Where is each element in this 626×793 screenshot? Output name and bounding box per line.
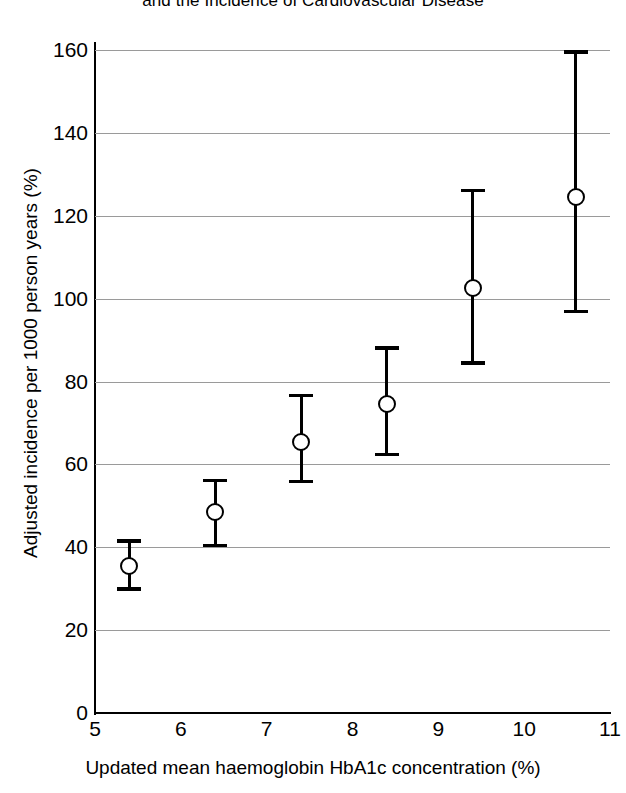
y-axis-tick-label: 100 — [28, 288, 88, 309]
gridline — [95, 216, 610, 217]
error-bar-cap-upper — [117, 539, 141, 543]
y-axis-tick-label: 40 — [28, 536, 88, 557]
error-bar-cap-lower — [203, 544, 227, 548]
y-axis-tick-label: 120 — [28, 205, 88, 226]
data-marker[interactable] — [206, 503, 224, 521]
y-axis-tick-label: 80 — [28, 371, 88, 392]
data-marker[interactable] — [567, 188, 585, 206]
x-axis-tick-label: 6 — [151, 718, 211, 740]
error-bar-cap-lower — [461, 361, 485, 365]
x-axis-tick-label: 11 — [580, 718, 626, 740]
chart-figure: and the Incidence of Cardiovascular Dise… — [0, 0, 626, 793]
y-axis-tick-label: 60 — [28, 453, 88, 474]
error-bar-cap-upper — [564, 50, 588, 54]
gridline — [95, 299, 610, 300]
x-axis-tick-label: 8 — [323, 718, 383, 740]
chart-title: and the Incidence of Cardiovascular Dise… — [0, 0, 626, 11]
error-bar-cap-upper — [461, 189, 485, 193]
gridline — [95, 547, 610, 548]
gridline — [95, 464, 610, 465]
gridline — [95, 50, 610, 51]
data-marker[interactable] — [120, 557, 138, 575]
gridline — [95, 382, 610, 383]
error-bar-cap-upper — [375, 346, 399, 350]
error-bar-cap-upper — [203, 479, 227, 483]
error-bar-cap-lower — [375, 453, 399, 457]
error-bar-cap-lower — [117, 587, 141, 591]
data-marker[interactable] — [464, 279, 482, 297]
error-bar-cap-lower — [289, 480, 313, 484]
plot-area — [95, 50, 610, 713]
y-axis-tick-label: 140 — [28, 122, 88, 143]
data-marker[interactable] — [292, 433, 310, 451]
error-bar-cap-lower — [564, 310, 588, 314]
error-bar-cap-upper — [289, 394, 313, 398]
error-bar-line — [574, 50, 577, 313]
x-axis-title: Updated mean haemoglobin HbA1c concentra… — [0, 757, 626, 779]
error-bar-line — [471, 189, 474, 365]
y-axis-tick-label: 20 — [28, 619, 88, 640]
gridline — [95, 133, 610, 134]
x-axis-tick-label: 5 — [65, 718, 125, 740]
y-axis-tick-labels: 020406080100120140160 — [20, 0, 88, 793]
data-marker[interactable] — [378, 395, 396, 413]
gridline — [95, 630, 610, 631]
x-axis-tick-label: 7 — [237, 718, 297, 740]
x-axis-tick-label: 10 — [494, 718, 554, 740]
x-axis-tick-label: 9 — [408, 718, 468, 740]
y-axis-tick-label: 160 — [28, 39, 88, 60]
